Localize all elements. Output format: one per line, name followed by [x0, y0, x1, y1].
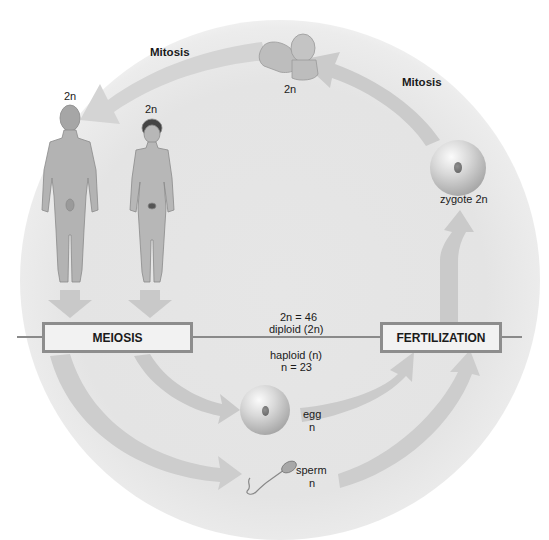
diploid-label: diploid (2n) — [269, 323, 323, 336]
baby-ploidy-label: 2n — [284, 83, 296, 96]
down-arrow-woman — [128, 290, 172, 318]
down-arrow-man — [48, 290, 92, 318]
mitosis-arrow-right — [300, 52, 440, 146]
zygote-label: zygote 2n — [440, 193, 488, 206]
sperm-name-label: sperm — [296, 464, 327, 477]
baby-figure — [259, 34, 318, 80]
meiosis-label: MEIOSIS — [92, 331, 142, 345]
egg-ploidy-label: n — [309, 421, 315, 434]
egg-nucleus — [262, 406, 269, 416]
meiosis-to-sperm-arrow — [50, 354, 242, 490]
fertilization-box: FERTILIZATION — [380, 322, 502, 353]
sperm-figure — [247, 459, 299, 495]
zygote-nucleus — [454, 162, 462, 173]
zygote-cell — [430, 140, 486, 196]
adult-female-figure — [130, 119, 174, 282]
fertilization-to-zygote-arrow — [440, 210, 474, 322]
man-ploidy-label: 2n — [64, 90, 76, 103]
egg-cell — [240, 385, 290, 435]
mitosis-label-right: Mitosis — [402, 76, 442, 89]
meiosis-box: MEIOSIS — [42, 322, 193, 353]
mitosis-label-left: Mitosis — [150, 46, 190, 59]
adult-male-figure — [42, 105, 98, 282]
meiosis-to-egg-arrow — [134, 354, 240, 424]
fertilization-label: FERTILIZATION — [396, 331, 485, 345]
sperm-ploidy-label: n — [309, 477, 315, 490]
woman-ploidy-label: 2n — [145, 103, 157, 116]
haploid-count: n = 23 — [281, 361, 312, 374]
egg-name-label: egg — [303, 408, 321, 421]
